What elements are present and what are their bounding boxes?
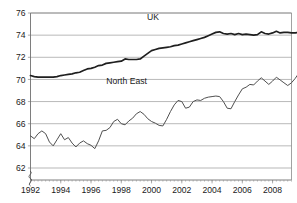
series-label-uk: UK [147,12,159,22]
y-tick-label-62: 62 [16,163,26,173]
x-tick-label-1994: 1994 [51,185,70,195]
x-tick-label-2006: 2006 [233,185,252,195]
y-tick-label-68: 68 [16,97,26,107]
x-tick-label-2008: 2008 [263,185,282,195]
y-tick-label-70: 70 [16,75,26,85]
x-tick-label-1996: 1996 [81,185,100,195]
x-tick-label-2000: 2000 [142,185,161,195]
x-tick-label-2002: 2002 [172,185,191,195]
employment-rate-chart: 6264666870727476 19921994199619982000200… [0,0,297,203]
y-tick-label-64: 64 [16,141,26,151]
x-tick-label-1998: 1998 [112,185,131,195]
y-tick-label-72: 72 [16,52,26,62]
y-tick-label-66: 66 [16,119,26,129]
x-axis-labels-group: 199219941996199820002002200420062008 [21,185,282,195]
y-tick-label-76: 76 [16,8,26,18]
x-tick-label-2004: 2004 [203,185,222,195]
x-tick-label-1992: 1992 [21,185,40,195]
series-label-north-east: North East [106,76,147,86]
chart-canvas: 6264666870727476 19921994199619982000200… [0,0,297,203]
y-tick-label-74: 74 [16,30,26,40]
